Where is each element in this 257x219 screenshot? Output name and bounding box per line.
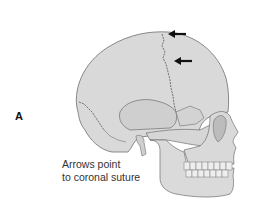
caption-line-1: Arrows point [62,158,140,171]
panel-label: A [15,110,23,122]
skull-figure [0,0,257,219]
figure-caption: Arrows point to coronal suture [62,158,140,183]
caption-line-2: to coronal suture [62,171,140,184]
skull-illustration [0,0,257,219]
mastoid-process [136,135,146,156]
teeth [184,162,232,177]
